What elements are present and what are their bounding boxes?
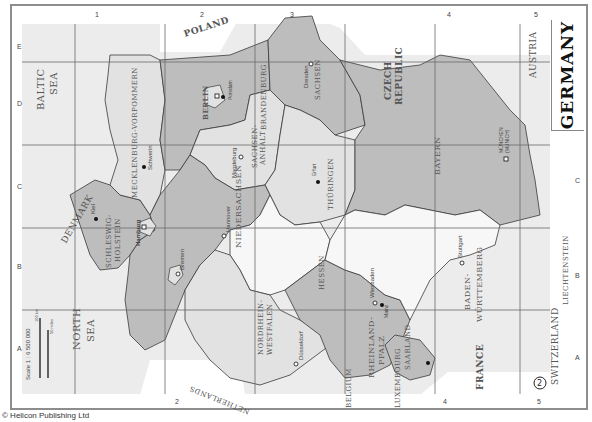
grid-row-c-right: C xyxy=(575,177,580,184)
city-label-mainz: Mainz xyxy=(383,304,389,318)
city-label-schwerin: Schwerin xyxy=(147,145,153,170)
city-marker-dresden[interactable] xyxy=(309,62,313,66)
label-saarland: SAARLAND xyxy=(404,324,412,370)
label-belgium: BELGIUM xyxy=(345,368,353,408)
grid-col-4: 4 xyxy=(447,11,451,18)
label-sachsen: SACHSEN xyxy=(314,59,322,100)
label-luxembourg: LUXEMBOURG xyxy=(394,348,402,408)
grid-col-5: 5 xyxy=(534,11,538,18)
city-label-magdeburg: Magdeburg xyxy=(231,148,237,178)
label-schleswig-line2: HOLSTEIN xyxy=(114,218,122,262)
label-austria: AUSTRIA xyxy=(528,31,538,79)
city-marker-dusseldorf[interactable] xyxy=(294,362,298,366)
city-label-erfurt: Erfurt xyxy=(311,163,317,176)
grid-row-c: C xyxy=(17,183,22,190)
city-marker-stuttgart[interactable] xyxy=(460,261,464,265)
map-title: GERMANY xyxy=(551,20,583,130)
label-nrw-line1: NORDRHEIN- xyxy=(257,299,265,355)
label-sachsen-anhalt-line1: SACHSEN- xyxy=(251,124,259,168)
label-switzerland: SWITZERLAND xyxy=(550,307,560,385)
grid-row-b-right: B xyxy=(575,272,580,279)
grid-col-5-bottom: 5 xyxy=(537,398,541,405)
north-sea-line1: NORTH xyxy=(71,308,82,350)
label-mecklenburg: MECKLENBURG-VORPOMMERN xyxy=(131,67,139,198)
label-sachsen-anhalt-line2: ANHALT xyxy=(259,131,267,166)
label-liechtenstein: LIECHTENSTEIN xyxy=(562,235,570,305)
scale-km: 100 km xyxy=(34,308,39,322)
city-marker-potsdam[interactable] xyxy=(221,95,225,99)
city-marker-erfurt[interactable] xyxy=(316,180,320,184)
label-thuringen: THÜRINGEN xyxy=(326,158,335,210)
germany-map: 1 2 3 4 5 2 4 5 A B C D E A B C BALTIC S… xyxy=(0,0,592,422)
city-marker-saarbrucken[interactable] xyxy=(426,361,430,365)
baltic-sea-line2: SEA xyxy=(48,72,59,95)
city-label-hamburg: Hamburg xyxy=(135,219,141,246)
city-label-wiesbaden: Wiesbaden xyxy=(369,268,375,298)
city-label-potsdam: Potsdam xyxy=(227,80,233,100)
page-badge-number: 2 xyxy=(537,379,542,388)
city-marker-bremen[interactable] xyxy=(176,272,180,276)
city-label-bremen: Bremen xyxy=(179,249,185,270)
city-label-kiel: Kiel xyxy=(90,204,96,214)
label-baden-line2: WÜRTTEMBERG xyxy=(475,247,484,322)
grid-col-2: 2 xyxy=(200,11,204,18)
city-marker-hannover[interactable] xyxy=(222,234,226,238)
city-label-munich-line2: (MUNICH) xyxy=(504,129,510,153)
scale-label: Scale 1 : 6 500 000 xyxy=(25,328,31,380)
city-label-dresden: Dresden xyxy=(303,65,309,88)
scale-miles: 50 miles xyxy=(49,319,54,334)
city-label-dusseldorf: Düsseldorf xyxy=(298,331,304,360)
grid-row-a: A xyxy=(17,345,22,352)
grid-row-d: D xyxy=(17,100,22,107)
north-sea-line2: SEA xyxy=(85,319,96,342)
grid-col-4-bottom: 4 xyxy=(443,398,447,405)
label-bayern: BAYERN xyxy=(433,137,442,175)
city-marker-berlin[interactable] xyxy=(215,94,219,98)
credit: © Helicon Publishing Ltd xyxy=(2,411,89,420)
city-marker-schwerin[interactable] xyxy=(142,165,146,169)
grid-col-1: 1 xyxy=(95,11,99,18)
label-france: FRANCE xyxy=(475,344,485,390)
label-berlin: BERLIN xyxy=(201,85,210,120)
baltic-sea-line1: BALTIC xyxy=(35,68,46,110)
grid-row-a-right: A xyxy=(575,354,580,361)
city-marker-hamburg[interactable] xyxy=(142,225,146,229)
grid-col-3: 3 xyxy=(290,11,294,18)
label-schleswig-line1: SCHLESWIG- xyxy=(105,214,113,268)
city-marker-magdeburg[interactable] xyxy=(239,155,243,159)
label-czech-line1: CZECH xyxy=(383,61,393,100)
grid-row-e: E xyxy=(17,43,22,50)
label-baden-line1: BADEN- xyxy=(463,273,472,310)
label-rheinland-line1: RHEINLAND- xyxy=(367,317,376,378)
grid-col-2-bottom: 2 xyxy=(175,398,179,405)
city-label-hannover: Hannover xyxy=(225,206,231,232)
grid-row-b: B xyxy=(17,263,22,270)
label-rheinland-line2: PFALZ xyxy=(377,336,386,365)
label-czech-line2: REPUBLIC xyxy=(394,47,404,105)
city-marker-munich[interactable] xyxy=(504,157,508,161)
label-hessen: HESSEN xyxy=(318,255,326,290)
city-marker-kiel[interactable] xyxy=(94,217,98,221)
label-nrw-line2: WESTFALEN xyxy=(266,304,274,355)
city-marker-wiesbaden[interactable] xyxy=(373,301,377,305)
label-brandenburg: BRANDENBURG xyxy=(260,64,268,130)
city-label-stuttgart: Stuttgart xyxy=(457,235,463,258)
